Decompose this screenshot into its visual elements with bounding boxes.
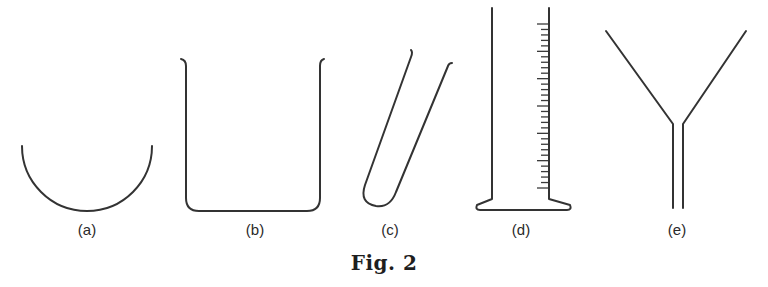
measuring-cylinder-drawing [476,8,570,210]
figure-caption: Fig. 2 [351,251,418,275]
label-a: (a) [78,221,96,238]
test-tube-drawing [363,50,452,206]
label-b: (b) [246,221,264,238]
beaker-drawing [181,59,324,211]
label-d: (d) [512,221,530,238]
graduation-marks [537,24,548,188]
label-c: (c) [381,221,399,238]
bowl-drawing [22,146,152,211]
label-e: (e) [668,221,686,238]
figure-2: (a) (b) (c) (d) (e) Fig. 2 [0,0,768,287]
apparatus-drawings [0,0,768,287]
funnel-drawing [606,31,746,208]
